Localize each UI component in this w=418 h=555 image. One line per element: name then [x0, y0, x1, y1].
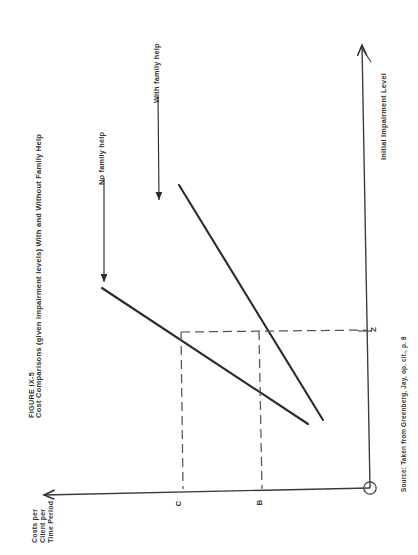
- figure-drawing: [0, 0, 418, 555]
- cost-axis-label-line-3: Time Period: [47, 501, 54, 543]
- figure-title: Cost Comparisons (given impairment level…: [34, 134, 43, 418]
- source-note: Source: Taken from Greenberg, Jay, op. c…: [400, 336, 407, 492]
- cost-axis-label-line-1: Costs per: [31, 509, 38, 543]
- annotation-no-family-help: No family help: [97, 132, 106, 185]
- leader-arrow-with-family-help: [158, 96, 159, 200]
- dashed-drop-line-c: [181, 332, 183, 489]
- cost-axis-label-line-2: Client per: [39, 509, 46, 543]
- annotation-with-family-help: With family help: [152, 43, 161, 103]
- tick-label-z: Z: [369, 327, 378, 332]
- tick-label-b: B: [255, 500, 264, 506]
- line-with-family-help: [179, 185, 323, 420]
- line-no-family-help: [102, 288, 308, 424]
- impairment-axis-label: Initial Impairment Level: [379, 73, 388, 160]
- dashed-drop-line-b: [259, 331, 262, 489]
- impairment-axis-line: [362, 45, 370, 488]
- cost-axis-line: [44, 488, 370, 495]
- figure-canvas: FIGURE IX-5 Cost Comparisons (given impa…: [0, 0, 418, 555]
- tick-label-c: C: [174, 501, 183, 507]
- dashed-reference-line-z: [181, 330, 368, 332]
